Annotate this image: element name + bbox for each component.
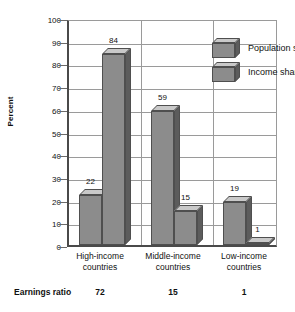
earnings-ratio-value-low-income: 1 <box>206 287 282 297</box>
bar-front-face <box>174 211 197 245</box>
legend-item-population-share: Population share <box>212 37 295 61</box>
category-label-middle-income: Middle-income countries <box>133 251 213 273</box>
y-tick-mark-10 <box>58 224 67 225</box>
y-tick-mark-0 <box>58 247 67 248</box>
y-tick-mark-40 <box>58 156 67 157</box>
y-tick-label-30: 30 <box>21 174 61 183</box>
legend-item-income-share: Income share <box>212 61 295 85</box>
y-tick-label-50: 50 <box>21 129 61 138</box>
y-tick-mark-70 <box>58 88 67 89</box>
y-tick-label-10: 10 <box>21 220 61 229</box>
y-tick-mark-50 <box>58 134 67 135</box>
y-axis-title: Percent <box>6 82 15 142</box>
y-tick-label-40: 40 <box>21 152 61 161</box>
bar-high-income-population: 22 <box>79 195 102 245</box>
y-tick-mark-100 <box>58 20 67 21</box>
bar-value-label: 15 <box>181 193 190 202</box>
bar-front-face <box>79 195 102 245</box>
bar-value-label: 84 <box>109 36 118 45</box>
y-tick-mark-90 <box>58 43 67 44</box>
bar-front-face <box>102 54 125 245</box>
y-tick-mark-60 <box>58 111 67 112</box>
bar-middle-income-income: 15 <box>174 211 197 245</box>
category-label-line2: countries <box>133 262 213 273</box>
category-label-line2: countries <box>206 262 282 273</box>
earnings-ratio-value-middle-income: 15 <box>133 287 213 297</box>
bar-middle-income-population: 59 <box>151 111 174 245</box>
legend-label-population-share: Population share <box>248 43 295 53</box>
earnings-ratio-value-high-income: 72 <box>62 287 138 297</box>
category-label-line1: High-income <box>62 251 138 262</box>
cube-3d-icon <box>212 67 235 82</box>
bar-side-face <box>197 205 203 245</box>
legend: Population share Income share <box>212 37 295 85</box>
bar-front-face <box>151 111 174 245</box>
category-label-low-income: Low-income countries <box>206 251 282 273</box>
bar-value-label: 19 <box>230 184 239 193</box>
category-label-line1: Low-income <box>206 251 282 262</box>
vgridline-group-1 <box>141 21 142 245</box>
y-tick-label-0: 0 <box>21 243 61 252</box>
y-tick-label-70: 70 <box>21 84 61 93</box>
y-tick-label-60: 60 <box>21 106 61 115</box>
legend-label-income-share: Income share <box>248 67 295 77</box>
cube-3d-icon <box>212 43 235 58</box>
bar-high-income-income: 84 <box>102 54 125 245</box>
bar-value-label: 22 <box>86 177 95 186</box>
y-tick-label-100: 100 <box>21 16 61 25</box>
bar-front-face <box>246 243 269 245</box>
y-tick-mark-30 <box>58 179 67 180</box>
gridline-70 <box>69 89 276 90</box>
category-label-line1: Middle-income <box>133 251 213 262</box>
bar-low-income-population: 19 <box>223 202 246 245</box>
y-tick-mark-80 <box>58 65 67 66</box>
bar-value-label: 1 <box>255 225 259 234</box>
bar-front-face <box>223 202 246 245</box>
cube-front-face <box>212 67 235 82</box>
y-tick-label-90: 90 <box>21 38 61 47</box>
cube-front-face <box>212 43 235 58</box>
category-label-high-income: High-income countries <box>62 251 138 273</box>
plot-area: 22 84 59 15 19 <box>67 20 277 247</box>
y-tick-label-80: 80 <box>21 61 61 70</box>
y-tick-label-20: 20 <box>21 197 61 206</box>
bar-side-face <box>125 48 131 245</box>
category-label-line2: countries <box>62 262 138 273</box>
bar-low-income-income: 1 <box>246 243 269 245</box>
bar-value-label: 59 <box>158 93 167 102</box>
y-tick-mark-20 <box>58 202 67 203</box>
chart-figure: Percent 100 90 80 70 60 50 40 30 20 10 0 <box>0 0 295 312</box>
